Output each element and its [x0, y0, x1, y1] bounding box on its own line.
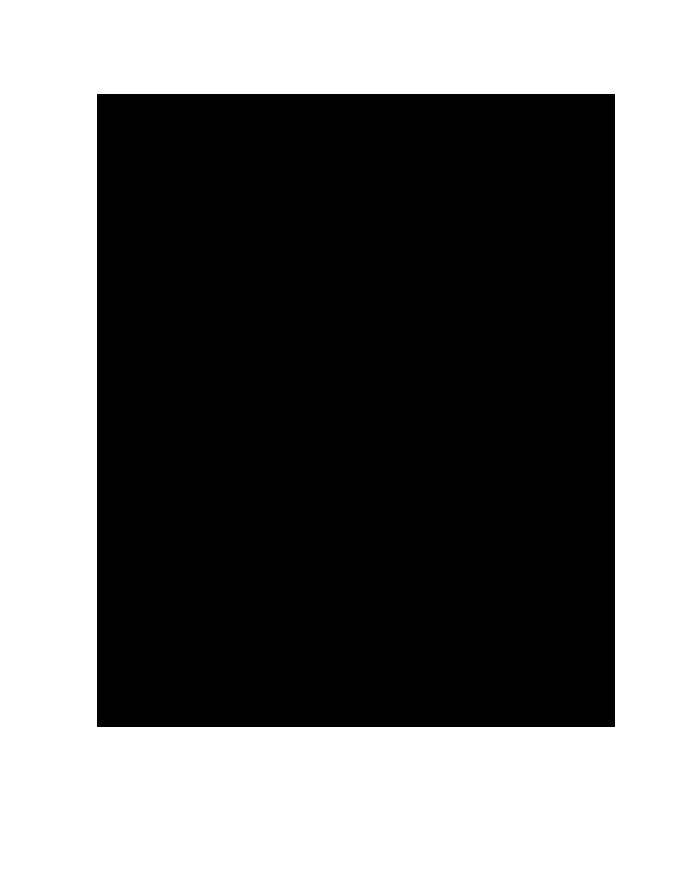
chart-canvas: [0, 0, 696, 876]
plot-area: [97, 94, 615, 727]
